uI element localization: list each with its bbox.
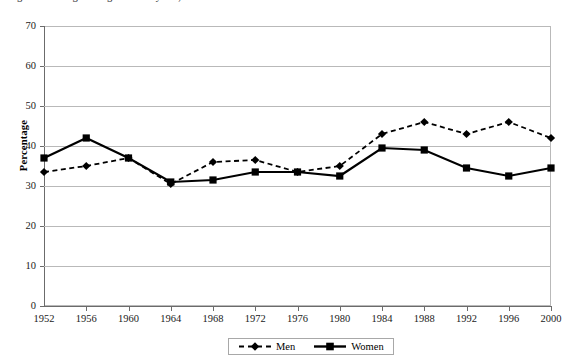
x-tick-mark [86,306,87,311]
x-tick-mark [298,306,299,311]
gridline [44,66,551,67]
y-tick-label: 20 [2,221,36,232]
y-tick-label: 70 [2,21,36,32]
x-tick-mark [424,306,425,311]
x-tick-label: 1964 [148,313,194,324]
gridline [44,266,551,267]
chart-legend: MenWomen [228,338,394,355]
y-tick-label: 0 [2,301,36,312]
x-tick-mark [382,306,383,311]
x-tick-label: 2000 [528,313,574,324]
x-tick-label: 1968 [190,313,236,324]
x-tick-label: 1996 [486,313,532,324]
x-tick-label: 1976 [275,313,321,324]
plot-area [44,26,551,306]
x-tick-mark [467,306,468,311]
x-tick-mark [255,306,256,311]
gridline [44,226,551,227]
legend-entry-women: Women [313,341,383,352]
gridline [44,106,551,107]
legend-entry-men: Men [238,341,295,352]
y-tick-label: 40 [2,141,36,152]
x-tick-mark [509,306,510,311]
square-marker-icon [313,341,347,352]
y-axis-line [44,26,45,306]
y-tick-label: 10 [2,261,36,272]
y-tick-label: 30 [2,181,36,192]
legend-label: Men [276,341,295,352]
x-tick-mark [340,306,341,311]
x-tick-label: 1992 [444,313,490,324]
figure-container: Figure 1. Voting and registration by sex… [0,0,581,364]
x-tick-label: 1988 [401,313,447,324]
x-tick-label: 1980 [317,313,363,324]
y-tick-mark [40,26,44,27]
gridline [44,186,551,187]
x-tick-mark [129,306,130,311]
y-tick-mark [40,306,44,307]
x-tick-mark [171,306,172,311]
x-tick-label: 1960 [106,313,152,324]
x-tick-label: 1952 [21,313,67,324]
x-tick-label: 1972 [232,313,278,324]
figure-title: Figure 1. Voting and registration by sex… [8,0,428,3]
x-tick-label: 1984 [359,313,405,324]
x-tick-mark [551,306,552,311]
x-tick-label: 1956 [63,313,109,324]
gridline [44,146,551,147]
x-tick-mark [213,306,214,311]
y-tick-label: 50 [2,101,36,112]
diamond-marker-icon [238,341,272,352]
legend-label: Women [351,341,383,352]
y-tick-label: 60 [2,61,36,72]
